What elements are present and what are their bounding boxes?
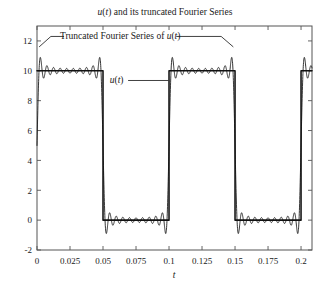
y-axis-tick-labels: -2024681012 xyxy=(23,36,33,255)
x-tick-label: 0.2 xyxy=(295,256,306,266)
x-tick-label: 0.05 xyxy=(95,256,111,266)
y-tick-label: -2 xyxy=(25,245,33,255)
x-tick-label: 0 xyxy=(35,256,40,266)
x-tick-label: 0.075 xyxy=(126,256,147,266)
y-tick-label: 6 xyxy=(28,126,33,136)
y-tick-label: 8 xyxy=(28,96,33,106)
square-wave-series xyxy=(37,71,312,220)
annotation-leader-lines xyxy=(39,36,233,80)
y-tick-label: 0 xyxy=(28,215,33,225)
y-tick-label: 4 xyxy=(28,156,33,166)
x-axis-label: t xyxy=(173,270,176,280)
ut-annotation-label: u(t) xyxy=(110,75,124,86)
plot-frame xyxy=(37,26,312,250)
y-tick-label: 2 xyxy=(28,186,33,196)
figure-container: u(t) and its truncated Fourier Series 00… xyxy=(0,0,330,295)
fourier-annotation-label: Truncated Fourier Series of u(t) xyxy=(60,31,181,42)
plot-frame-rect xyxy=(37,26,312,250)
x-axis-tick-labels: 00.0250.050.0750.10.1250.150.1750.2 xyxy=(35,256,307,266)
chart-title: u(t) and its truncated Fourier Series xyxy=(98,7,233,18)
y-tick-label: 10 xyxy=(23,66,33,76)
y-tick-label: 12 xyxy=(23,36,32,46)
fourier-leader-right xyxy=(176,36,233,46)
x-tick-label: 0.15 xyxy=(227,256,243,266)
chart-svg: u(t) and its truncated Fourier Series 00… xyxy=(0,0,330,295)
x-tick-label: 0.125 xyxy=(192,256,213,266)
x-tick-label: 0.175 xyxy=(258,256,279,266)
x-tick-label: 0.025 xyxy=(60,256,81,266)
x-tick-label: 0.1 xyxy=(163,256,174,266)
fourier-series-line xyxy=(37,57,312,233)
